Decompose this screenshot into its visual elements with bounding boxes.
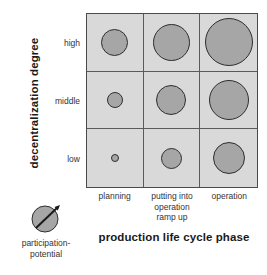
legend-icon-wrapper [8, 200, 84, 236]
bubble-middle-ramp-up [156, 85, 186, 115]
x-tick-ramp-up-line2: operation [144, 202, 199, 213]
bubble-matrix-chart: decentralization degree high middle low [0, 0, 267, 275]
x-axis-title: production life cycle phase [86, 231, 262, 243]
cell-low-planning [87, 129, 144, 187]
bubble-high-ramp-up [153, 24, 190, 61]
cell-middle-ramp-up [144, 72, 201, 130]
legend: participation- potential [8, 200, 84, 259]
cell-low-operation [200, 129, 257, 187]
bubble-low-ramp-up [161, 148, 182, 169]
cell-high-planning [87, 14, 144, 72]
legend-label-line2: potential [8, 249, 84, 260]
cell-high-ramp-up [144, 14, 201, 72]
x-tick-label-operation: operation [201, 191, 258, 231]
x-tick-planning-line1: planning [87, 191, 142, 202]
legend-label: participation- potential [8, 238, 84, 259]
cell-high-operation [200, 14, 257, 72]
x-tick-label-ramp-up: putting into operation ramp up [143, 191, 200, 231]
y-tick-label-low: low [34, 154, 80, 164]
bubble-middle-planning [107, 92, 123, 108]
bubble-high-planning [101, 29, 128, 56]
cell-middle-operation [200, 72, 257, 130]
y-tick-label-high: high [34, 38, 80, 48]
cell-middle-planning [87, 72, 144, 130]
x-axis-tick-labels: planning putting into operation ramp up … [86, 191, 258, 231]
cell-low-ramp-up [144, 129, 201, 187]
legend-label-line1: participation- [8, 238, 84, 249]
x-tick-operation-line1: operation [202, 191, 257, 202]
y-axis-tick-labels: high middle low [36, 13, 82, 188]
bubble-low-planning [111, 154, 119, 162]
y-tick-label-middle: middle [34, 96, 80, 106]
circle-with-arrow-icon [29, 201, 63, 235]
x-tick-label-planning: planning [86, 191, 143, 231]
bubble-high-operation [205, 18, 253, 66]
bubble-middle-operation [209, 80, 249, 120]
x-tick-ramp-up-line1: putting into [144, 191, 199, 202]
plot-area [86, 13, 258, 188]
x-tick-ramp-up-line3: ramp up [144, 212, 199, 223]
bubble-low-operation [213, 142, 245, 174]
